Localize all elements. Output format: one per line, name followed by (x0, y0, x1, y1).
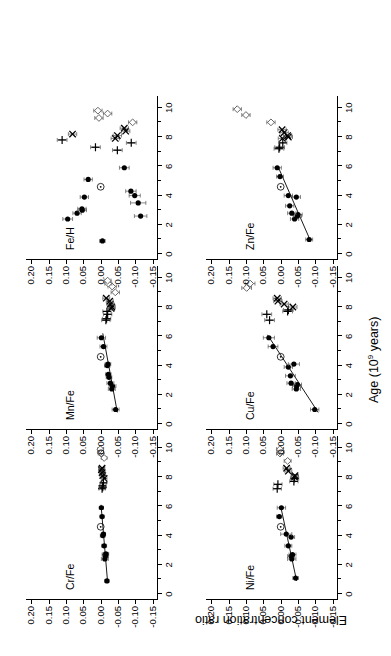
x-minor-tick (158, 321, 161, 322)
x-axis-title-exponent: 9 (366, 355, 375, 359)
y-tick (66, 600, 67, 604)
x-tick-label: 8 (344, 134, 354, 139)
y-tick-label: -0.10 (131, 436, 141, 458)
y-tick (281, 430, 282, 434)
x-tick-label: 4 (344, 533, 354, 538)
x-tick-label: 10 (164, 272, 174, 283)
y-tick-label: 0.15 (44, 436, 54, 455)
x-tick (158, 224, 162, 225)
x-tick-label: 2 (344, 222, 354, 227)
y-tick-label: -0.15 (328, 266, 338, 288)
y-tick (246, 430, 247, 434)
x-tick (158, 165, 162, 166)
x-tick-label: 8 (344, 474, 354, 479)
x-tick-label: 10 (164, 442, 174, 453)
x-tick-label: 6 (164, 334, 174, 339)
y-tick (118, 430, 119, 434)
x-tick (338, 335, 342, 336)
y-tick (298, 260, 299, 264)
panel-zn-fe: 02468100.200.150.100.050.00-0.05-0.10-0.… (206, 96, 338, 260)
y-tick-label: -0.15 (328, 606, 338, 628)
y-tick (31, 600, 32, 604)
x-tick (338, 394, 342, 395)
y-tick-label: 0.00 (276, 266, 286, 285)
y-tick-label: -0.05 (293, 266, 303, 288)
y-tick-label: 0.10 (61, 606, 71, 625)
panel-datapoints (206, 266, 338, 430)
x-tick (158, 253, 162, 254)
y-tick-label: 0.15 (44, 606, 54, 625)
x-tick-label: 2 (344, 392, 354, 397)
x-tick-label: 8 (344, 304, 354, 309)
x-minor-tick (158, 491, 161, 492)
panel-ni-fe: 02468100.200.150.100.050.00-0.05-0.10-0.… (206, 436, 338, 600)
x-tick (158, 593, 162, 594)
x-minor-tick (158, 379, 161, 380)
y-tick (49, 430, 50, 434)
y-tick (118, 260, 119, 264)
x-tick-label: 0 (344, 252, 354, 257)
panel-datapoints (206, 96, 338, 260)
x-tick-label: 2 (344, 562, 354, 567)
x-tick-label: 8 (164, 304, 174, 309)
x-tick (338, 423, 342, 424)
x-minor-tick (158, 350, 161, 351)
y-tick (263, 430, 264, 434)
y-tick-label: 0.00 (96, 436, 106, 455)
figure-rotation-wrapper: Element concentration ratio Age (109 yea… (0, 0, 391, 656)
x-tick (158, 107, 162, 108)
y-tick-label: 0.00 (276, 436, 286, 455)
x-minor-tick (338, 461, 341, 462)
x-tick-label: 6 (344, 164, 354, 169)
x-tick (338, 306, 342, 307)
y-tick-label: -0.05 (113, 606, 123, 628)
x-tick (338, 224, 342, 225)
x-tick-label: 10 (344, 272, 354, 283)
y-tick (229, 260, 230, 264)
x-minor-tick (338, 321, 341, 322)
y-tick (135, 260, 136, 264)
y-tick-label: -0.10 (311, 606, 321, 628)
x-minor-tick (158, 209, 161, 210)
y-tick (211, 430, 212, 434)
y-tick (333, 600, 334, 604)
y-tick (101, 260, 102, 264)
x-tick (158, 505, 162, 506)
x-minor-tick (338, 151, 341, 152)
x-tick-label: 4 (164, 363, 174, 368)
y-tick-label: 0.20 (206, 436, 216, 455)
y-tick (31, 430, 32, 434)
y-tick (118, 600, 119, 604)
y-tick (66, 430, 67, 434)
x-tick (158, 136, 162, 137)
x-tick-label: 0 (164, 592, 174, 597)
y-tick (83, 430, 84, 434)
y-tick-label: -0.10 (311, 436, 321, 458)
y-tick-label: 0.20 (26, 436, 36, 455)
x-minor-tick (338, 409, 341, 410)
x-tick (158, 306, 162, 307)
x-tick (158, 365, 162, 366)
x-tick (338, 253, 342, 254)
x-axis-title-prefix: Age (10 (367, 359, 381, 403)
panel-cu-fe: 02468100.200.150.100.050.00-0.05-0.10-0.… (206, 266, 338, 430)
panel-mn-fe: 02468100.200.150.100.050.00-0.05-0.10-0.… (26, 266, 158, 430)
y-tick (298, 600, 299, 604)
x-axis-title-suffix: years) (367, 317, 381, 355)
y-tick-label: 0.05 (79, 436, 89, 455)
x-minor-tick (338, 121, 341, 122)
x-minor-tick (158, 461, 161, 462)
x-minor-tick (338, 549, 341, 550)
y-tick-label: 0.00 (96, 266, 106, 285)
x-tick (338, 365, 342, 366)
x-minor-tick (158, 520, 161, 521)
x-tick (158, 335, 162, 336)
x-minor-tick (338, 379, 341, 380)
x-tick (338, 564, 342, 565)
x-tick-label: 6 (344, 334, 354, 339)
y-tick (83, 600, 84, 604)
x-minor-tick (338, 209, 341, 210)
x-tick-label: 2 (164, 562, 174, 567)
y-tick (263, 600, 264, 604)
y-tick (246, 600, 247, 604)
